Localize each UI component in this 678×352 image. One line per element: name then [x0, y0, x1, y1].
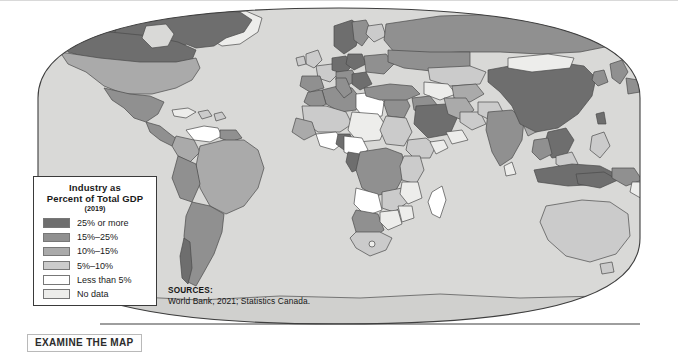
legend-swatch	[43, 218, 70, 228]
legend-entry: 5%–10%	[43, 259, 156, 273]
legend-swatch	[43, 233, 70, 243]
legend-entry-label: 25% or more	[77, 218, 129, 228]
map-sources: SOURCES: World Bank, 2021; Statistics Ca…	[168, 286, 310, 306]
legend-entry-label: No data	[77, 289, 109, 299]
legend-swatch	[43, 275, 70, 285]
legend-entry: No data	[43, 287, 156, 301]
sources-heading: SOURCES:	[168, 286, 310, 296]
legend-entry-label: 10%–15%	[77, 246, 118, 256]
world-map-figure: Industry as Percent of Total GDP (2019) …	[0, 6, 678, 328]
map-page: Industry as Percent of Total GDP (2019) …	[0, 0, 678, 352]
legend-title-line2: Percent of Total GDP	[34, 193, 156, 204]
legend-entry: 25% or more	[43, 216, 156, 230]
legend-swatch	[43, 261, 70, 271]
legend-entry-label: 15%–25%	[77, 232, 118, 242]
legend-entry: 10%–15%	[43, 244, 156, 258]
legend-swatch	[43, 247, 70, 257]
legend-entry: Less than 5%	[43, 273, 156, 287]
legend-entry-list: 25% or more 15%–25% 10%–15% 5%–10% Less …	[43, 216, 156, 301]
map-legend: Industry as Percent of Total GDP (2019) …	[33, 176, 157, 306]
legend-entry: 15%–25%	[43, 230, 156, 244]
legend-swatch	[43, 289, 70, 299]
examine-the-map-heading: EXAMINE THE MAP	[27, 334, 142, 352]
legend-title-line1: Industry as	[34, 182, 156, 193]
legend-entry-label: Less than 5%	[77, 275, 132, 285]
legend-title-year: (2019)	[34, 204, 156, 214]
legend-entry-label: 5%–10%	[77, 261, 113, 271]
sources-body: World Bank, 2021; Statistics Canada.	[168, 296, 310, 306]
